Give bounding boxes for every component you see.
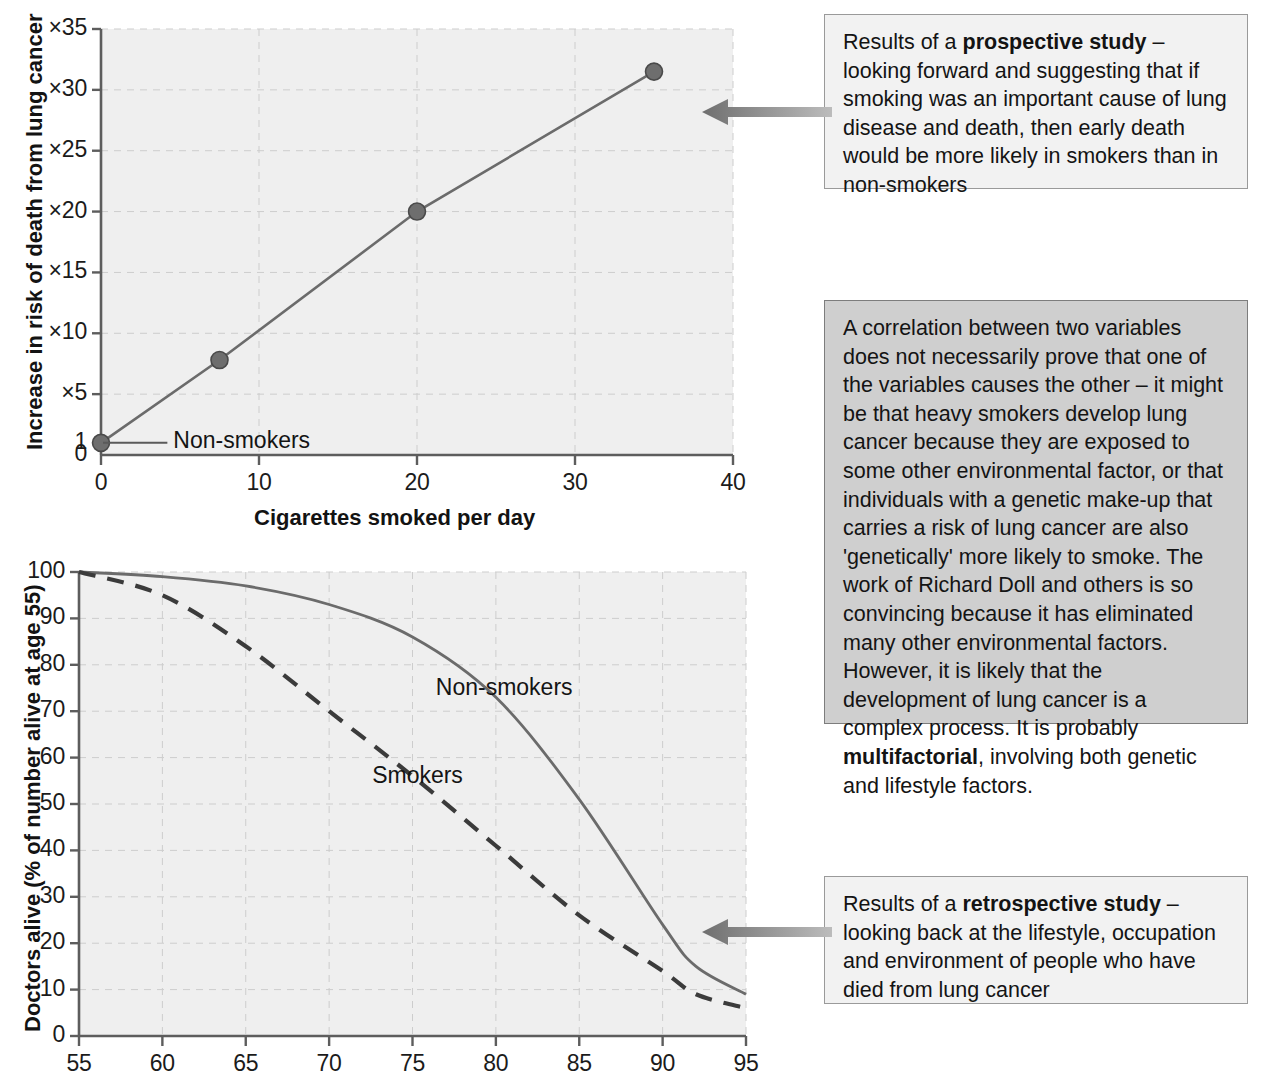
y-tick-label: ×35 (49, 14, 87, 41)
risk-vs-cigarettes-chart: Increase in risk of death from lung canc… (0, 0, 760, 530)
correlation-note: A correlation between two variables does… (824, 300, 1248, 724)
y-tick-label: ×30 (49, 75, 87, 102)
annotation-non-smokers: Non-smokers (173, 427, 310, 454)
data-point-marker (409, 203, 426, 220)
annotation-non-smokers: Non-smokers (436, 674, 573, 701)
y-tick-label: 90 (40, 603, 65, 630)
x-tick-label: 60 (150, 1050, 175, 1074)
x-tick-label: 70 (317, 1050, 342, 1074)
figure-canvas: Increase in risk of death from lung canc… (0, 0, 1263, 1074)
y-tick-label: ×5 (61, 379, 87, 406)
data-point-marker (646, 63, 663, 80)
y-tick-label: 0 (52, 1021, 65, 1048)
x-tick-label: 85 (567, 1050, 592, 1074)
y-tick-label: 30 (40, 882, 65, 909)
y-tick-label: 40 (40, 835, 65, 862)
left-arrow-icon (702, 96, 832, 128)
y-tick-label: ×20 (49, 197, 87, 224)
y-tick-label: ×25 (49, 136, 87, 163)
retrospective-study-note: Results of a retrospective study – looki… (824, 876, 1248, 1004)
prospective-note-text: Results of a prospective study – looking… (843, 30, 1227, 197)
x-tick-label: 20 (404, 469, 429, 496)
x-tick-label: 80 (483, 1050, 508, 1074)
x-tick-label: 65 (233, 1050, 258, 1074)
y-tick-label: ×10 (49, 318, 87, 345)
x-tick-label: 0 (95, 469, 108, 496)
x-axis-title-top: Cigarettes smoked per day (254, 505, 535, 531)
left-arrow-icon (702, 916, 832, 948)
correlation-note-text: A correlation between two variables does… (843, 316, 1223, 798)
x-tick-label: 40 (720, 469, 745, 496)
y-tick-label: 50 (40, 789, 65, 816)
multifactorial-term: multifactorial (843, 745, 978, 769)
y-axis-title-top: Increase in risk of death from lung canc… (22, 14, 48, 450)
y-tick-label: ×15 (49, 257, 87, 284)
x-tick-label: 30 (562, 469, 587, 496)
y-tick-label: 1 (74, 428, 87, 455)
annotation-smokers: Smokers (372, 762, 463, 789)
x-tick-label: 55 (66, 1050, 91, 1074)
x-tick-label: 10 (246, 469, 271, 496)
y-tick-label: 10 (40, 975, 65, 1002)
data-line-risk (101, 72, 654, 443)
y-tick-label: 20 (40, 928, 65, 955)
x-tick-label: 75 (400, 1050, 425, 1074)
y-tick-label: 60 (40, 743, 65, 770)
prospective-study-term: prospective study (963, 30, 1147, 54)
y-tick-label: 70 (40, 696, 65, 723)
data-point-marker (211, 352, 228, 369)
bottom-chart-graphics (0, 545, 790, 1074)
x-tick-label: 90 (650, 1050, 675, 1074)
x-tick-label: 95 (733, 1050, 758, 1074)
y-tick-label: 80 (40, 650, 65, 677)
doctors-alive-chart: Doctors alive (% of number alive at age … (0, 545, 790, 1074)
retrospective-note-text: Results of a retrospective study – looki… (843, 892, 1216, 1002)
retrospective-study-term: retrospective study (963, 892, 1161, 916)
prospective-study-note: Results of a prospective study – looking… (824, 14, 1248, 189)
y-tick-label: 100 (27, 557, 65, 584)
top-chart-graphics (0, 0, 760, 530)
